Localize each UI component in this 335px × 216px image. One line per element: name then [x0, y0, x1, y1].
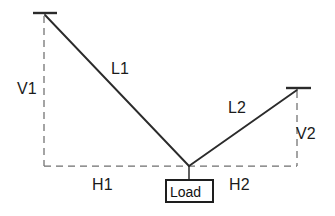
diagram-canvas — [0, 0, 335, 216]
dimension-lines-group — [44, 16, 297, 166]
label-h1: H1 — [92, 177, 113, 193]
label-l1: L1 — [111, 61, 129, 77]
label-h2: H2 — [229, 177, 250, 193]
label-v2: V2 — [296, 126, 316, 142]
load-box-label: Load — [170, 185, 201, 199]
cables-group — [45, 15, 297, 166]
supports-group — [33, 13, 311, 88]
cable-l1 — [45, 15, 189, 166]
cable-load-diagram: V1 L1 L2 V2 H1 H2 Load — [0, 0, 335, 216]
label-l2: L2 — [228, 100, 246, 116]
label-v1: V1 — [17, 81, 37, 97]
